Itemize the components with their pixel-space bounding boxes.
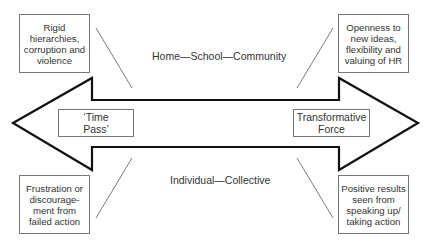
axis-label-top: Home—School—Community [152,50,286,62]
axis-label-bottom: Individual—Collective [170,174,270,186]
factor-box-bottom-right: Positive results seen from speaking up/ … [338,175,409,234]
connector-bottom-right [297,158,333,218]
pole-box-time-pass: ‘Time Pass’ [58,109,134,137]
pole-box-transformative-force: Transformative Force [293,109,370,137]
connector-top-right [297,28,333,88]
connector-bottom-left [96,158,132,218]
factor-box-bottom-left: Frustration or discourage- ment from fai… [19,175,90,234]
connector-top-left [96,28,132,88]
factor-box-top-left: Rigid hierarchies, corruption and violen… [19,14,90,73]
factor-box-top-right: Openness to new ideas, flexibility and v… [338,14,409,73]
